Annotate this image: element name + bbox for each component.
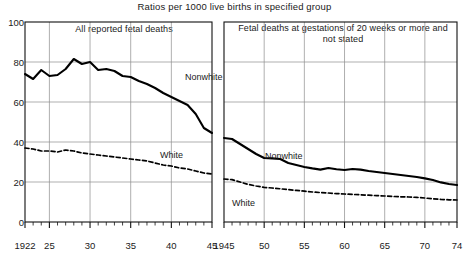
series-left-nonwhite [25,59,212,133]
x-tick-left-1922: 1922 [14,240,35,251]
x-tick-right-70: 70 [420,240,431,251]
plot-area [0,0,469,259]
series-right-nonwhite [224,138,457,185]
annotation-left-white: White [160,150,183,160]
x-tick-right-60: 60 [339,240,350,251]
x-tick-right-50: 50 [259,240,270,251]
chart-root: Ratios per 1000 live births in specified… [0,0,469,259]
x-tick-right-65: 65 [379,240,390,251]
panel-right [224,22,457,228]
series-left-white [25,148,212,174]
x-tick-left-40: 40 [166,240,177,251]
annotation-left-nonwhite: Nonwhite [185,72,223,82]
x-tick-right-74: 74 [452,240,463,251]
x-tick-left-30: 30 [85,240,96,251]
x-tick-right-55: 55 [299,240,310,251]
annotation-right-nonwhite: Nonwhite [265,151,303,161]
panel-left [25,22,212,228]
x-tick-left-25: 25 [44,240,55,251]
x-tick-right-1945: 1945 [213,240,234,251]
x-tick-left-35: 35 [125,240,136,251]
annotation-right-white: White [232,198,255,208]
